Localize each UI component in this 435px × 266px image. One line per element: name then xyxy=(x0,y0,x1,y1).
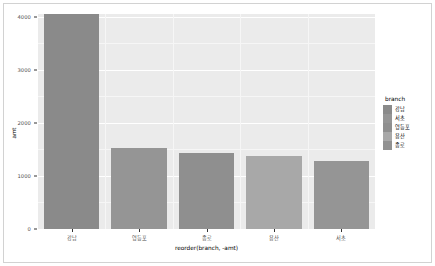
legend: branch 강남서초영등포용산종로 xyxy=(383,96,433,150)
legend-item-label: 강남 xyxy=(395,107,405,112)
legend-items: 강남서초영등포용산종로 xyxy=(383,105,433,150)
legend-item-label: 서초 xyxy=(395,116,405,121)
legend-item-label: 용산 xyxy=(395,134,405,139)
legend-swatch xyxy=(383,114,392,123)
y-tick-label: 1000 xyxy=(17,173,31,179)
legend-item[interactable]: 서초 xyxy=(383,114,433,123)
bars-layer xyxy=(38,14,375,229)
legend-item[interactable]: 강남 xyxy=(383,105,433,114)
bar xyxy=(111,148,166,229)
bar xyxy=(44,14,99,229)
legend-swatch xyxy=(383,123,392,132)
y-tick-mark xyxy=(34,175,37,176)
y-tick-label: 4000 xyxy=(17,14,31,20)
y-axis-title: amt xyxy=(11,127,17,138)
y-tick-label: 2000 xyxy=(17,120,31,126)
x-tick-mark xyxy=(207,229,208,232)
x-tick-mark xyxy=(274,229,275,232)
legend-item-label: 영등포 xyxy=(395,125,410,130)
chart-root: 01000200030004000 amt 강남영등포종로용산서초 reorde… xyxy=(0,0,435,266)
x-tick-label: 용산 xyxy=(269,234,279,241)
x-tick-label: 영등포 xyxy=(132,234,147,241)
y-tick-label: 3000 xyxy=(17,67,31,73)
legend-swatch xyxy=(383,141,392,150)
legend-item-label: 종로 xyxy=(395,143,405,148)
x-tick-label: 서초 xyxy=(336,234,346,241)
y-axis: 01000200030004000 xyxy=(0,14,38,229)
legend-swatch xyxy=(383,105,392,114)
x-tick-mark xyxy=(72,229,73,232)
x-tick-label: 종로 xyxy=(202,234,212,241)
bar xyxy=(179,153,234,229)
x-tick-label: 강남 xyxy=(67,234,77,241)
legend-item[interactable]: 영등포 xyxy=(383,123,433,132)
plot-panel xyxy=(38,14,375,229)
y-tick-mark xyxy=(34,229,37,230)
bar xyxy=(314,161,369,229)
bar xyxy=(246,156,301,229)
x-axis-title: reorder(branch, -amt) xyxy=(38,245,375,251)
legend-item[interactable]: 종로 xyxy=(383,141,433,150)
legend-title: branch xyxy=(385,96,433,102)
x-tick-mark xyxy=(139,229,140,232)
x-tick-mark xyxy=(341,229,342,232)
legend-item[interactable]: 용산 xyxy=(383,132,433,141)
x-axis: 강남영등포종로용산서초 xyxy=(38,229,375,245)
y-tick-label: 0 xyxy=(28,226,31,232)
y-tick-mark xyxy=(34,69,37,70)
legend-swatch xyxy=(383,132,392,141)
y-tick-mark xyxy=(34,16,37,17)
y-tick-mark xyxy=(34,122,37,123)
